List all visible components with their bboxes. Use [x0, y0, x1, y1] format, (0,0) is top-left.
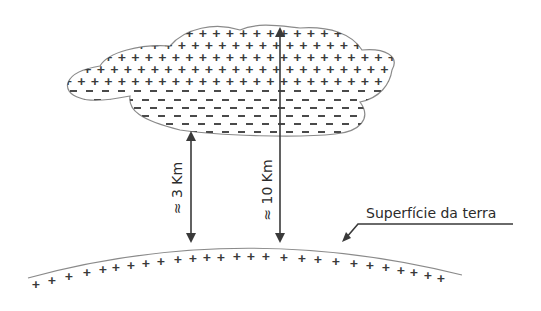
- svg-text:+: +: [233, 249, 241, 264]
- svg-text:+: +: [157, 254, 165, 269]
- svg-text:+: +: [70, 38, 78, 53]
- svg-text:+: +: [97, 38, 105, 53]
- svg-text:+: +: [348, 74, 356, 89]
- svg-text:+: +: [280, 74, 288, 89]
- svg-text:+: +: [375, 74, 383, 89]
- svg-text:+: +: [213, 74, 221, 89]
- svg-text:+: +: [127, 258, 135, 273]
- svg-text:+: +: [142, 256, 150, 271]
- svg-text:+: +: [64, 26, 72, 41]
- svg-text:+: +: [397, 263, 405, 278]
- svg-text:+: +: [294, 74, 302, 89]
- svg-text:+: +: [280, 250, 288, 265]
- surface-leader-line: [346, 224, 513, 238]
- svg-text:+: +: [48, 273, 56, 288]
- svg-text:+: +: [388, 26, 396, 41]
- label-10km: ≈ 10 Km: [259, 159, 275, 220]
- svg-text:+: +: [32, 277, 40, 292]
- svg-text:+: +: [118, 74, 126, 89]
- svg-text:+: +: [65, 269, 73, 284]
- svg-text:+: +: [394, 62, 402, 77]
- distance-arrow-3km: ≈ 3 Km: [169, 136, 191, 238]
- svg-text:+: +: [145, 74, 153, 89]
- svg-text:+: +: [361, 26, 369, 41]
- surface-label: Superfície da terra: [366, 205, 496, 221]
- svg-text:+: +: [91, 74, 99, 89]
- svg-text:+: +: [203, 250, 211, 265]
- svg-text:+: +: [388, 74, 396, 89]
- svg-text:+: +: [91, 50, 99, 65]
- svg-text:+: +: [159, 74, 167, 89]
- svg-text:+: +: [199, 74, 207, 89]
- svg-text:+: +: [78, 50, 86, 65]
- svg-text:+: +: [84, 38, 92, 53]
- svg-text:+: +: [262, 249, 270, 264]
- svg-text:+: +: [334, 74, 342, 89]
- ground-positive-charges: +++++++++++++++++++++++++++: [32, 249, 445, 292]
- svg-text:+: +: [321, 74, 329, 89]
- svg-text:+: +: [410, 265, 418, 280]
- svg-text:+: +: [189, 251, 197, 266]
- svg-text:+: +: [332, 254, 340, 269]
- svg-text:+: +: [132, 74, 140, 89]
- svg-text:+: +: [112, 260, 120, 275]
- svg-text:+: +: [172, 74, 180, 89]
- svg-text:+: +: [111, 38, 119, 53]
- svg-text:+: +: [253, 74, 261, 89]
- svg-text:+: +: [314, 252, 322, 267]
- svg-text:+: +: [78, 26, 86, 41]
- svg-text:+: +: [174, 252, 182, 267]
- svg-text:+: +: [394, 38, 402, 53]
- svg-text:+: +: [159, 26, 167, 41]
- svg-text:+: +: [382, 260, 390, 275]
- svg-text:+: +: [226, 74, 234, 89]
- svg-text:+: +: [78, 74, 86, 89]
- surface-label-group: Superfície da terra: [342, 205, 513, 242]
- svg-text:+: +: [361, 74, 369, 89]
- svg-text:+: +: [240, 74, 248, 89]
- cloud-ground-diagram: ++++++++++++++++++++++++++++++++++++++++…: [0, 0, 541, 311]
- svg-text:+: +: [64, 50, 72, 65]
- cloud: ++++++++++++++++++++++++++++++++++++++++…: [64, 25, 405, 136]
- svg-text:+: +: [366, 258, 374, 273]
- label-3km: ≈ 3 Km: [169, 162, 185, 214]
- svg-text:+: +: [83, 265, 91, 280]
- svg-text:+: +: [105, 74, 113, 89]
- svg-text:+: +: [307, 74, 315, 89]
- svg-text:+: +: [267, 74, 275, 89]
- svg-text:+: +: [105, 26, 113, 41]
- svg-text:+: +: [145, 26, 153, 41]
- svg-text:+: +: [91, 26, 99, 41]
- svg-text:+: +: [437, 271, 445, 286]
- svg-text:+: +: [99, 262, 107, 277]
- earth-surface: +++++++++++++++++++++++++++: [28, 248, 462, 292]
- svg-text:+: +: [186, 74, 194, 89]
- svg-text:+: +: [375, 26, 383, 41]
- svg-text:+: +: [424, 268, 432, 283]
- svg-text:+: +: [247, 249, 255, 264]
- svg-text:+: +: [132, 26, 140, 41]
- svg-text:+: +: [350, 256, 358, 271]
- svg-text:+: +: [217, 250, 225, 265]
- svg-text:+: +: [118, 26, 126, 41]
- svg-text:+: +: [298, 251, 306, 266]
